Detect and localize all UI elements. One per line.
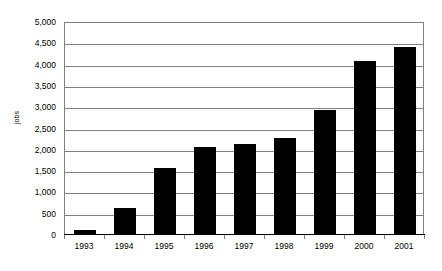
y-tick-label: 1,500 [35,167,56,176]
x-tick-label: 1993 [75,242,94,251]
x-tick-mark [64,235,65,239]
bar [314,110,336,234]
y-tick-label: 0 [51,231,56,240]
x-tick-mark [384,235,385,239]
x-tick-label: 1994 [115,242,134,251]
x-tick-mark [224,235,225,239]
y-axis-title-text: jobs [14,111,21,125]
bar [114,208,136,234]
x-tick-mark [424,235,425,239]
x-tick-label: 1999 [315,242,334,251]
x-tick-label: 2001 [395,242,414,251]
x-tick-mark [304,235,305,239]
x-axis-tick-labels: 199319941995199619971998199920002001 [64,242,424,258]
y-tick-label: 2,500 [35,124,56,133]
x-tick-label: 1997 [235,242,254,251]
x-tick-mark [184,235,185,239]
y-tick-label: 4,500 [35,39,56,48]
bar [194,147,216,234]
x-tick-mark [344,235,345,239]
y-tick-label: 1,000 [35,188,56,197]
bar [274,138,296,234]
x-tick-mark [144,235,145,239]
bar [354,61,376,234]
y-axis-tick-labels: 05001,0001,5002,0002,5003,0003,5004,0004… [22,22,60,235]
x-tick-label: 1998 [275,242,294,251]
bar [154,168,176,234]
bar-chart: jobs 05001,0001,5002,0002,5003,0003,5004… [0,0,442,271]
x-tick-label: 1995 [155,242,174,251]
y-tick-label: 500 [42,209,56,218]
bar [394,47,416,234]
y-tick-label: 3,500 [35,82,56,91]
x-tick-mark [104,235,105,239]
bar [234,144,256,234]
bars-layer [65,23,423,234]
x-axis-line [64,234,425,235]
y-tick-label: 2,000 [35,146,56,155]
y-tick-label: 5,000 [35,18,56,27]
plot-area [64,22,424,235]
y-tick-label: 4,000 [35,60,56,69]
x-tick-label: 1996 [195,242,214,251]
x-tick-mark [264,235,265,239]
x-tick-label: 2000 [355,242,374,251]
y-tick-label: 3,000 [35,103,56,112]
